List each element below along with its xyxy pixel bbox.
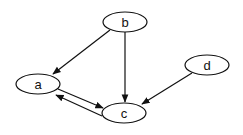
edge-b-to-a: [53, 30, 110, 74]
node-a: a: [16, 74, 60, 94]
node-c: c: [102, 103, 146, 123]
node-d: d: [185, 55, 229, 75]
node-b: b: [103, 12, 147, 32]
node-label-b: b: [121, 15, 128, 30]
node-label-c: c: [121, 106, 128, 121]
node-label-d: d: [203, 58, 210, 73]
graph-diagram: b a c d: [0, 0, 243, 135]
node-label-a: a: [34, 77, 42, 92]
edge-d-to-c: [142, 73, 192, 104]
